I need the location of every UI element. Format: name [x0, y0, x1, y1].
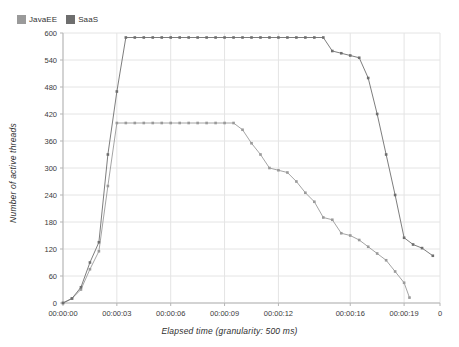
data-point-marker	[277, 169, 280, 172]
data-point-marker	[178, 36, 181, 39]
data-point-marker	[349, 54, 352, 57]
x-tick-label: 0	[438, 309, 442, 318]
data-point-marker	[259, 36, 262, 39]
data-point-marker	[313, 36, 316, 39]
data-point-marker	[286, 36, 289, 39]
data-point-marker	[313, 200, 316, 203]
y-tick-label: 300	[44, 164, 57, 173]
data-point-marker	[286, 171, 289, 174]
chart-container: JavaEE SaaS Number of active threads Ela…	[0, 0, 459, 347]
y-tick-labels: 060120180240300360420480540600	[44, 29, 57, 308]
data-point-marker	[178, 122, 181, 125]
data-point-marker	[107, 153, 110, 156]
data-point-marker	[331, 50, 334, 53]
data-point-marker	[259, 153, 262, 156]
data-point-marker	[142, 122, 145, 125]
data-point-marker	[331, 218, 334, 221]
data-point-marker	[160, 36, 163, 39]
data-point-marker	[322, 36, 325, 39]
series-line-saas	[63, 38, 433, 304]
data-point-marker	[160, 122, 163, 125]
data-point-marker	[169, 36, 172, 39]
data-point-marker	[223, 122, 226, 125]
data-point-marker	[232, 36, 235, 39]
data-point-marker	[89, 261, 92, 264]
data-point-marker	[304, 191, 307, 194]
data-point-marker	[125, 36, 128, 39]
data-point-marker	[205, 122, 208, 125]
data-point-marker	[134, 122, 137, 125]
series-lines	[62, 36, 434, 304]
data-point-marker	[412, 243, 415, 246]
data-point-marker	[98, 250, 101, 253]
data-point-marker	[89, 268, 92, 271]
data-point-marker	[421, 247, 424, 250]
y-tick-label: 600	[44, 29, 57, 38]
data-point-marker	[107, 185, 110, 188]
data-point-marker	[304, 36, 307, 39]
y-tick-label: 60	[49, 272, 57, 281]
data-point-marker	[394, 194, 397, 197]
data-point-marker	[358, 56, 361, 59]
data-point-marker	[340, 232, 343, 235]
y-tick-label: 360	[44, 137, 57, 146]
x-tick-label: 00:00:00	[48, 309, 77, 318]
y-tick-label: 420	[44, 110, 57, 119]
data-point-marker	[205, 36, 208, 39]
data-point-marker	[98, 241, 101, 244]
data-point-marker	[187, 122, 190, 125]
x-tick-label: 00:00:09	[210, 309, 239, 318]
data-point-marker	[196, 36, 199, 39]
x-tick-label: 00:00:16	[336, 309, 365, 318]
x-tick-label: 00:00:12	[264, 309, 293, 318]
plot-area: 060120180240300360420480540600 00:00:000…	[0, 0, 459, 347]
data-point-marker	[385, 153, 388, 156]
data-point-marker	[151, 122, 154, 125]
data-point-marker	[432, 254, 435, 257]
data-point-marker	[125, 122, 128, 125]
data-point-marker	[277, 36, 280, 39]
data-point-marker	[367, 245, 370, 248]
x-tick-label: 00:00:06	[156, 309, 185, 318]
y-tick-label: 540	[44, 56, 57, 65]
data-point-marker	[116, 90, 119, 93]
data-point-marker	[241, 128, 244, 131]
data-point-marker	[214, 36, 217, 39]
data-point-marker	[250, 36, 253, 39]
data-point-marker	[151, 36, 154, 39]
data-point-marker	[367, 77, 370, 80]
data-point-marker	[268, 36, 271, 39]
data-point-marker	[187, 36, 190, 39]
data-point-marker	[196, 122, 199, 125]
x-tick-label: 00:00:03	[102, 309, 131, 318]
data-point-marker	[232, 122, 235, 125]
x-tick-labels: 00:00:0000:00:0300:00:0600:00:0900:00:12…	[48, 309, 442, 318]
data-point-marker	[169, 122, 172, 125]
data-point-marker	[376, 113, 379, 116]
data-point-marker	[295, 180, 298, 183]
data-point-marker	[71, 297, 74, 300]
data-point-marker	[322, 216, 325, 219]
data-point-marker	[376, 252, 379, 255]
data-point-marker	[385, 259, 388, 262]
y-tick-label: 120	[44, 245, 57, 254]
data-point-marker	[223, 36, 226, 39]
data-point-marker	[358, 239, 361, 242]
y-tick-label: 480	[44, 83, 57, 92]
data-point-marker	[142, 36, 145, 39]
data-point-marker	[250, 142, 253, 145]
data-point-marker	[349, 234, 352, 237]
data-point-marker	[62, 302, 65, 305]
x-tick-label: 00:00:19	[389, 309, 418, 318]
data-point-marker	[403, 281, 406, 284]
data-point-marker	[295, 36, 298, 39]
data-point-marker	[214, 122, 217, 125]
y-tick-label: 180	[44, 218, 57, 227]
data-point-marker	[116, 122, 119, 125]
data-point-marker	[241, 36, 244, 39]
data-point-marker	[403, 236, 406, 239]
data-point-marker	[394, 270, 397, 273]
data-point-marker	[408, 296, 411, 299]
data-point-marker	[340, 52, 343, 55]
y-tick-label: 0	[53, 299, 57, 308]
